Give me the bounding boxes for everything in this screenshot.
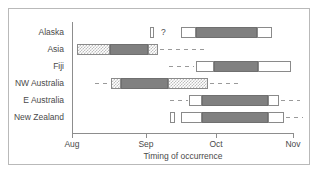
figure-container: AugSepOctNov AlaskaAsiaFijiNW AustraliaE… [0,0,324,177]
bar-segment-new-zealand-open-0 [170,112,175,123]
range-whisker-fiji-0 [169,66,194,67]
y-axis-line [72,22,73,133]
bar-segment-e-australia-open-2 [268,95,279,106]
bar-segment-fiji-open-0 [196,61,214,72]
category-label-fiji: Fiji [53,61,64,71]
bar-segment-alaska-open-0 [150,27,154,38]
bar-segment-new-zealand-solid-2 [202,112,268,123]
range-whisker-nw-australia-0 [95,83,110,84]
bar-segment-fiji-open-2 [258,61,291,72]
x-axis-tick-label-aug: Aug [64,139,79,149]
bar-segment-nw-australia-hatch-2 [168,78,208,89]
bar-segment-nw-australia-solid-1 [121,78,168,89]
category-label-alaska: Alaska [38,27,64,37]
x-axis-title: Timing of occurrence [143,151,222,161]
range-whisker-e-australia-0 [170,100,188,101]
range-whisker-nw-australia-1 [210,83,240,84]
annotation-question-mark-alaska: ? [161,27,166,37]
x-axis-tick-label-sep: Sep [138,139,153,149]
bar-segment-asia-hatch-0 [77,44,110,55]
x-axis-tick-aug [72,133,73,138]
range-whisker-e-australia-1 [281,100,300,101]
category-label-asia: Asia [47,44,64,54]
x-axis-tick-label-oct: Oct [209,139,222,149]
bar-segment-new-zealand-open-3 [268,112,284,123]
category-label-nw-australia: NW Australia [15,78,64,88]
bar-segment-alaska-open-3 [257,27,272,38]
x-axis-tick-oct [216,133,217,138]
plot-area: AugSepOctNov AlaskaAsiaFijiNW AustraliaE… [0,0,324,177]
bar-segment-alaska-open-1 [181,27,196,38]
range-whisker-new-zealand-0 [286,117,303,118]
category-label-e-australia: E Australia [23,95,64,105]
bar-segment-fiji-solid-1 [214,61,258,72]
x-axis-tick-sep [146,133,147,138]
bar-segment-asia-hatch-2 [148,44,158,55]
bar-segment-asia-solid-1 [110,44,148,55]
bar-segment-e-australia-solid-1 [202,95,268,106]
x-axis-line [72,133,294,134]
bar-segment-new-zealand-open-1 [181,112,202,123]
range-whisker-asia-0 [160,49,206,50]
x-axis-tick-label-nov: Nov [285,139,300,149]
bar-segment-alaska-solid-2 [196,27,257,38]
bar-segment-nw-australia-hatch-0 [111,78,121,89]
category-label-new-zealand: New Zealand [14,112,64,122]
bar-segment-e-australia-open-0 [189,95,202,106]
x-axis-tick-nov [293,133,294,138]
